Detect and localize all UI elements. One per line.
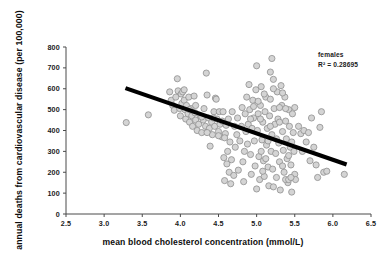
data-point	[305, 129, 311, 135]
x-tick-label: 6.0	[328, 219, 339, 228]
x-tick-label: 5.5	[289, 219, 300, 228]
data-point	[278, 83, 284, 89]
data-point	[266, 113, 272, 119]
data-point	[303, 139, 309, 145]
r-squared-label: R² = 0.28695	[318, 61, 358, 68]
data-point	[292, 104, 298, 110]
data-point	[232, 144, 238, 150]
data-point	[270, 86, 276, 92]
data-point	[229, 109, 235, 115]
data-point	[167, 89, 173, 95]
data-point	[276, 119, 282, 125]
data-point	[248, 171, 254, 177]
data-point	[270, 76, 276, 82]
data-point	[276, 104, 282, 110]
data-point	[244, 94, 250, 100]
data-point	[288, 162, 294, 168]
data-point	[222, 135, 228, 141]
data-point	[283, 105, 289, 111]
data-point	[237, 138, 243, 144]
data-point	[220, 109, 226, 115]
data-point	[239, 104, 245, 110]
x-axis-title: mean blood cholesterol concentration (mm…	[102, 237, 303, 247]
y-tick-label: 300	[47, 147, 60, 156]
data-point	[227, 139, 233, 145]
data-point	[246, 81, 252, 87]
y-tick-label: 500	[47, 105, 60, 114]
y-tick-label: 200	[47, 168, 60, 177]
data-point	[251, 138, 257, 144]
data-point	[231, 172, 237, 178]
data-point	[269, 55, 275, 61]
data-point	[252, 163, 258, 169]
data-point	[181, 87, 187, 93]
data-point	[267, 69, 273, 75]
data-point	[203, 70, 209, 76]
data-point	[286, 152, 292, 158]
data-point	[308, 115, 314, 121]
data-point	[315, 174, 321, 180]
y-tick-label: 400	[47, 126, 60, 135]
data-point	[280, 147, 286, 153]
data-point	[228, 157, 234, 163]
series-label: females	[318, 51, 344, 58]
data-point	[254, 186, 260, 192]
data-point	[257, 116, 263, 122]
data-point	[234, 132, 240, 138]
y-tick-label: 800	[47, 43, 60, 52]
y-tick-label: 100	[47, 189, 60, 198]
data-point	[267, 96, 273, 102]
x-tick-label: 3.0	[99, 219, 110, 228]
data-point	[254, 63, 260, 69]
data-point	[250, 103, 256, 109]
x-tick-label: 3.5	[137, 219, 148, 228]
data-point	[255, 98, 261, 104]
data-point	[273, 174, 279, 180]
data-point	[289, 189, 295, 195]
data-point	[240, 159, 246, 165]
data-point	[270, 184, 276, 190]
data-point	[258, 148, 264, 154]
data-point	[221, 155, 227, 161]
y-tick-label: 700	[47, 63, 60, 72]
data-point	[244, 141, 250, 147]
y-tick-label: 0	[56, 210, 60, 219]
chart-figure: 0100200300400500600700800 2.53.03.54.04.…	[0, 0, 386, 262]
data-point	[222, 178, 228, 184]
data-point	[279, 128, 285, 134]
data-point	[341, 171, 347, 177]
data-point	[317, 124, 323, 130]
data-point	[288, 174, 294, 180]
data-point	[270, 166, 276, 172]
data-point	[145, 112, 151, 118]
data-point	[247, 151, 253, 157]
data-point	[241, 148, 247, 154]
x-tick-label: 5.0	[251, 219, 262, 228]
data-point	[225, 148, 231, 154]
data-point	[207, 143, 213, 149]
data-point	[123, 119, 129, 125]
data-point	[191, 93, 197, 99]
data-point	[215, 133, 221, 139]
data-point	[286, 123, 292, 129]
x-tick-label: 4.0	[175, 219, 186, 228]
data-point	[204, 92, 210, 98]
scatter-plot-svg: 0100200300400500600700800 2.53.03.54.04.…	[0, 0, 386, 262]
data-point	[277, 187, 283, 193]
x-tick-label: 4.5	[213, 219, 224, 228]
data-point	[281, 169, 287, 175]
data-point	[213, 96, 219, 102]
data-point	[234, 115, 240, 121]
data-point	[279, 163, 285, 169]
data-point	[313, 162, 319, 168]
data-point	[295, 123, 301, 129]
data-point	[289, 111, 295, 117]
data-point	[204, 129, 210, 135]
data-point	[324, 168, 330, 174]
data-point	[267, 123, 273, 129]
data-point	[260, 168, 266, 174]
data-point	[318, 109, 324, 115]
x-tick-label: 2.5	[61, 219, 72, 228]
data-point	[311, 144, 317, 150]
data-point	[247, 116, 253, 122]
